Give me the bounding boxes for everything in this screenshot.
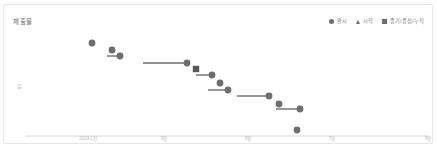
x-axis-tick-label: 2023 1월 xyxy=(79,137,97,142)
x-axis-tick-label: 3월 xyxy=(161,137,168,142)
circle-data-point[interactable] xyxy=(276,101,283,108)
connector-lines xyxy=(107,56,300,109)
circle-data-point[interactable] xyxy=(109,47,116,54)
data-markers xyxy=(89,40,304,134)
x-axis-tick-label: 5월 xyxy=(245,137,252,142)
circle-data-point[interactable] xyxy=(266,93,273,100)
square-data-point[interactable] xyxy=(193,66,199,72)
circle-data-point[interactable] xyxy=(297,106,304,113)
x-axis-tick-label: 9월 xyxy=(425,137,432,142)
circle-data-point[interactable] xyxy=(117,53,124,60)
chart-plot-area xyxy=(4,5,434,145)
chart-card: 제출물 완시 시작 종기/종점/누적 일 2023 1월3월5월7월9월 xyxy=(3,4,433,144)
circle-data-point[interactable] xyxy=(209,72,216,79)
circle-data-point[interactable] xyxy=(89,40,96,47)
circle-data-point[interactable] xyxy=(217,80,224,87)
x-axis-tick-label: 7월 xyxy=(329,137,336,142)
circle-data-point[interactable] xyxy=(184,60,191,67)
circle-data-point[interactable] xyxy=(294,127,301,134)
circle-data-point[interactable] xyxy=(225,87,232,94)
